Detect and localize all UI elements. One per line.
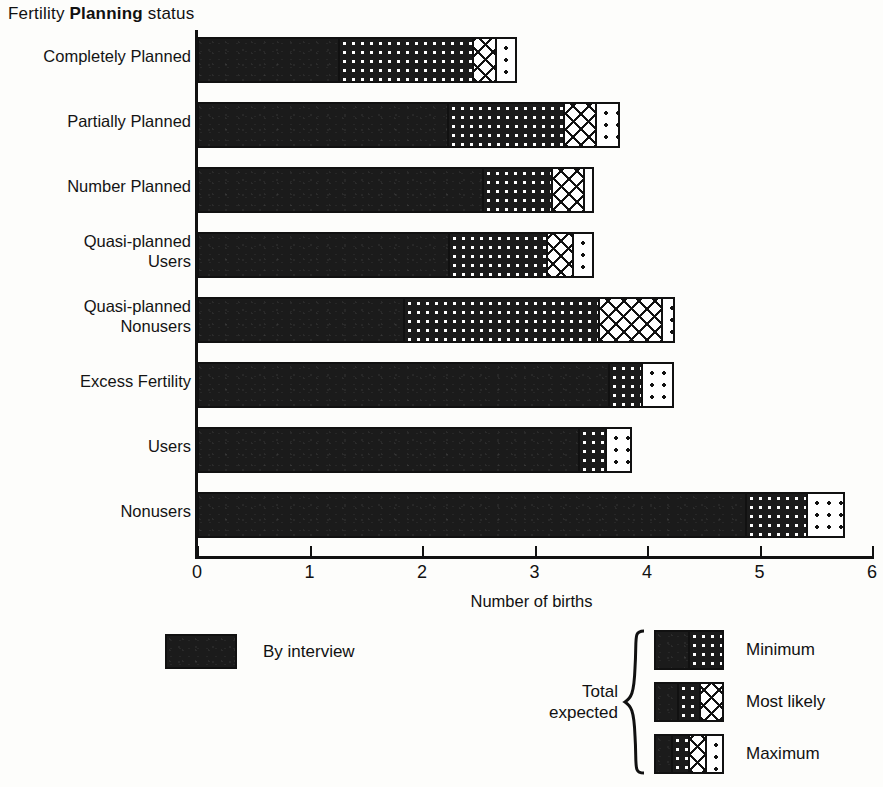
chart-title-part3: status	[143, 4, 194, 23]
bar-segment-minimum	[745, 494, 808, 536]
bar-segment-by-interview	[197, 494, 745, 536]
legend-pattern-dots-on-black	[671, 736, 688, 772]
legend-pattern-solid-black	[656, 684, 677, 720]
bar-segment-minimum	[608, 364, 644, 406]
chart-title-part1: Fertility	[8, 4, 70, 23]
x-axis-tick-label-3: 3	[529, 562, 539, 583]
category-label-nonusers: Nonusers	[0, 501, 191, 521]
category-label-quasi-planned-users: Quasi-planned Users	[0, 231, 191, 271]
bar-segment-most-likely	[563, 104, 598, 146]
legend-total-expected: Total expected MinimumMost likelyMaximum	[520, 628, 825, 776]
category-label-users: Users	[0, 436, 191, 456]
x-axis-tick-4	[647, 546, 649, 559]
legend-swatch-minimum	[654, 630, 724, 670]
bar-segment-most-likely	[551, 169, 585, 211]
legend-item-most-likely: Most likely	[654, 682, 825, 722]
chart-title: Fertility Planning status	[8, 4, 194, 24]
chart-canvas: Fertility Planning status Completely Pla…	[0, 0, 883, 787]
x-axis-tick-label-0: 0	[192, 562, 202, 583]
x-axis-tick-2	[422, 546, 424, 559]
legend-swatch-most-likely	[654, 682, 724, 722]
legend-pattern-dots-on-black	[688, 632, 722, 668]
bar-segment-maximum	[495, 39, 516, 81]
bar-segment-by-interview	[197, 364, 608, 406]
x-axis-tick-3	[535, 546, 537, 559]
bar-quasi-planned-users	[197, 232, 594, 278]
legend-pattern-solid-black	[656, 632, 688, 668]
x-axis-tick-label-1: 1	[304, 562, 314, 583]
category-label-number-planned: Number Planned	[0, 176, 191, 196]
legend-label-maximum: Maximum	[746, 744, 820, 764]
x-axis-title: Number of births	[0, 592, 883, 611]
bar-nonusers	[197, 492, 845, 538]
legend-label-by-interview: By interview	[263, 642, 355, 662]
legend-item-minimum: Minimum	[654, 630, 825, 670]
bar-quasi-planned-nonusers	[197, 297, 675, 343]
legend-pattern-dots-on-black	[677, 684, 700, 720]
legend-pattern-light-dots	[705, 736, 722, 772]
bar-segment-by-interview	[197, 429, 578, 471]
bar-segment-most-likely	[546, 234, 574, 276]
bar-partially-planned	[197, 102, 620, 148]
category-label-excess-fertility: Excess Fertility	[0, 371, 191, 391]
bar-segment-minimum	[447, 104, 565, 146]
legend-by-interview: By interview	[165, 634, 355, 669]
bar-segment-minimum	[448, 234, 548, 276]
bar-segment-minimum	[482, 169, 554, 211]
bar-segment-maximum	[605, 429, 632, 471]
chart-title-part2: Planning	[70, 4, 143, 23]
bar-segment-maximum	[572, 234, 595, 276]
bar-users	[197, 427, 632, 473]
brace-icon	[622, 628, 648, 776]
x-axis-tick-label-2: 2	[417, 562, 427, 583]
category-label-quasi-planned-nonusers: Quasi-planned Nonusers	[0, 296, 191, 336]
bar-number-planned	[197, 167, 594, 213]
legend-swatch-maximum	[654, 734, 724, 774]
legend-total-expected-label: Total expected	[520, 681, 618, 723]
bar-segment-by-interview	[197, 234, 448, 276]
x-axis-tick-label-4: 4	[642, 562, 652, 583]
legend-label-most-likely: Most likely	[746, 692, 825, 712]
legend-pattern-crosshatch	[688, 736, 705, 772]
bar-segment-most-likely	[598, 299, 663, 341]
bar-segment-by-interview	[197, 104, 447, 146]
legend-pattern-crosshatch	[699, 684, 722, 720]
bar-completely-planned	[197, 37, 517, 83]
bar-segment-minimum	[578, 429, 607, 471]
bar-segment-maximum	[595, 104, 620, 146]
bar-excess-fertility	[197, 362, 674, 408]
bar-segment-minimum	[403, 299, 600, 341]
x-axis-tick-5	[760, 546, 762, 559]
bar-segment-maximum	[661, 299, 676, 341]
x-axis-tick-label-6: 6	[867, 562, 877, 583]
category-label-completely-planned: Completely Planned	[0, 46, 191, 66]
legend-item-maximum: Maximum	[654, 734, 825, 774]
bar-segment-by-interview	[197, 299, 403, 341]
legend-swatch-by-interview	[165, 634, 237, 669]
x-axis-tick-1	[310, 546, 312, 559]
x-axis-tick-label-5: 5	[754, 562, 764, 583]
legend-pattern-solid-black	[656, 736, 671, 772]
x-axis-tick-6	[872, 546, 874, 559]
bar-segment-most-likely	[472, 39, 498, 81]
x-axis-tick-0	[197, 546, 199, 559]
bar-segment-minimum	[338, 39, 474, 81]
bar-segment-maximum	[806, 494, 845, 536]
bar-segment-by-interview	[197, 169, 482, 211]
legend-rows: MinimumMost likelyMaximum	[654, 630, 825, 774]
bar-segment-by-interview	[197, 39, 338, 81]
bar-segment-maximum	[583, 169, 594, 211]
category-label-partially-planned: Partially Planned	[0, 111, 191, 131]
bar-segment-maximum	[641, 364, 674, 406]
legend-label-minimum: Minimum	[746, 640, 815, 660]
